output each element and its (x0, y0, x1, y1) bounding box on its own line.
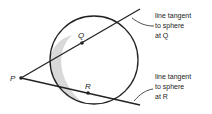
sphere-shading (50, 35, 84, 104)
point-q (80, 41, 84, 45)
sphere (50, 16, 138, 104)
annotation-tangent-q-line2: to sphere (155, 22, 184, 30)
leader-line-q (132, 18, 154, 26)
label-p: P (10, 74, 16, 83)
annotation-tangent-r-line1: line tangent (155, 73, 191, 81)
leader-line-r (134, 89, 153, 101)
point-p (19, 76, 23, 80)
label-q: Q (78, 31, 84, 40)
point-r (86, 91, 90, 95)
annotation-tangent-r-line3: at R (155, 93, 168, 100)
annotation-tangent-r-line2: to sphere (155, 83, 184, 91)
label-r: R (85, 82, 91, 91)
annotation-tangent-q-line3: at Q (155, 32, 169, 40)
annotation-tangent-q-line1: line tangent (155, 12, 191, 20)
diagram-canvas: P Q R line tangent to sphere at Q line t… (0, 0, 212, 114)
